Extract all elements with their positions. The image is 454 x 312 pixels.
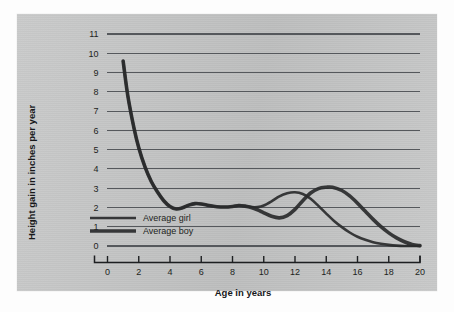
- y-tick-label-11: 11: [89, 29, 98, 39]
- x-tick-label-10: 10: [259, 267, 269, 277]
- y-axis-title: Height gain in inches per year: [26, 105, 37, 240]
- y-tick-label-10: 10: [88, 49, 98, 59]
- growth-velocity-chart: 01234567891011 02468101214161820 Average…: [0, 0, 454, 312]
- x-tick-label-20: 20: [415, 267, 425, 277]
- y-tick-label-7: 7: [93, 106, 98, 116]
- legend-group: Average girlAverage boy: [90, 213, 194, 236]
- y-tick-label-8: 8: [93, 87, 98, 97]
- y-tick-label-5: 5: [93, 145, 98, 155]
- y-tick-label-2: 2: [93, 203, 98, 213]
- x-tick-label-14: 14: [321, 267, 331, 277]
- legend-label-average-girl: Average girl: [143, 213, 191, 223]
- x-axis-group: [95, 256, 421, 263]
- x-tick-label-8: 8: [230, 267, 235, 277]
- x-tick-label-16: 16: [352, 267, 362, 277]
- y-tick-label-9: 9: [93, 68, 98, 78]
- x-tick-label-4: 4: [167, 267, 172, 277]
- y-tick-label-3: 3: [93, 184, 98, 194]
- x-axis-title: Age in years: [215, 287, 272, 298]
- y-tick-label-0: 0: [93, 241, 98, 251]
- figure-root: 01234567891011 02468101214161820 Average…: [0, 0, 454, 312]
- x-tick-label-6: 6: [199, 267, 204, 277]
- x-tick-label-2: 2: [136, 267, 141, 277]
- x-axis-line: [95, 256, 421, 263]
- x-tick-label-0: 0: [105, 267, 110, 277]
- y-tick-label-4: 4: [93, 164, 98, 174]
- x-tick-label-12: 12: [290, 267, 300, 277]
- x-tick-label-18: 18: [384, 267, 394, 277]
- legend-label-average-boy: Average boy: [143, 226, 194, 236]
- y-tick-label-6: 6: [93, 126, 98, 136]
- x-tick-labels-group: 02468101214161820: [105, 267, 425, 277]
